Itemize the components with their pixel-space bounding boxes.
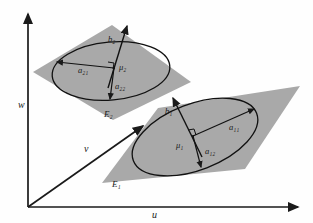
label-semi-axis-a12: a₁₂ [205, 146, 215, 156]
geometry-diagram-svg: w v u b₂ a₂₁ a₂₂ μ₂ E₂ b₁ a₁₁ a₁₂ μ₁ E₁ [0, 0, 313, 223]
label-semi-axis-a21: a₂₁ [78, 65, 88, 75]
label-ellipse-center-mu2: μ₂ [118, 62, 126, 72]
ellipse-E2-center-dot [113, 67, 115, 69]
label-plane-E2: E₂ [103, 109, 113, 119]
axis-label-v: v [84, 143, 89, 154]
label-normal-vector-b2: b₂ [108, 34, 115, 44]
label-normal-vector-b1: b₁ [165, 106, 172, 116]
ellipse-E1-center-dot [192, 135, 194, 137]
label-semi-axis-a22: a₂₂ [115, 81, 125, 91]
label-semi-axis-a11: a₁₁ [229, 122, 239, 132]
label-ellipse-center-mu1: μ₁ [175, 140, 183, 150]
label-plane-E1: E₁ [111, 179, 121, 189]
axis-label-u: u [152, 209, 157, 220]
axis-label-w: w [18, 99, 25, 110]
figure-canvas: w v u b₂ a₂₁ a₂₂ μ₂ E₂ b₁ a₁₁ a₁₂ μ₁ E₁ [0, 0, 313, 223]
